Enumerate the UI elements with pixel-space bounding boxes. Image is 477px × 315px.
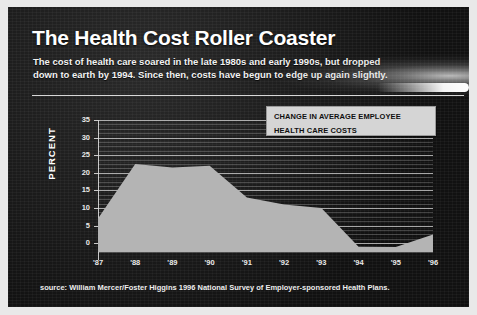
x-tick-95: '95 [391, 258, 401, 267]
y-tick-30: 30 [68, 134, 90, 142]
y-tick-5: 5 [68, 222, 90, 230]
x-tick-89: '89 [167, 258, 177, 267]
plot-area [98, 120, 433, 252]
area-series [98, 120, 433, 252]
x-tick-87: '87 [93, 258, 103, 267]
comet-core [377, 83, 469, 92]
y-tick-35: 35 [68, 116, 90, 124]
x-tick-90: '90 [205, 258, 215, 267]
x-tick-91: '91 [242, 258, 252, 267]
subtitle: The cost of health care soared in the la… [33, 55, 433, 81]
x-tick-92: '92 [279, 258, 289, 267]
subtitle-line-1: The cost of health care soared in the la… [33, 56, 380, 67]
page-title: The Health Cost Roller Coaster [32, 26, 335, 50]
y-tick-15: 15 [68, 186, 90, 194]
x-tick-94: '94 [353, 258, 363, 267]
infographic-root: The Health Cost Roller Coaster The cost … [0, 0, 477, 315]
subtitle-line-2: down to earth by 1994. Since then, costs… [33, 68, 433, 81]
y-tick-25: 25 [68, 151, 90, 159]
x-tick-96: '96 [428, 258, 438, 267]
source-note: source: William Mercer/Foster Higgins 19… [40, 283, 390, 292]
chart-legend: CHANGE IN AVERAGE EMPLOYEE HEALTH CARE C… [266, 106, 436, 136]
legend-line-1: CHANGE IN AVERAGE EMPLOYEE [267, 107, 435, 121]
x-tick-93: '93 [316, 258, 326, 267]
x-axis-ticks: '87'88'89'90'91'92'93'94'95'96 [98, 258, 433, 274]
y-tick-20: 20 [68, 169, 90, 177]
dark-panel: The Health Cost Roller Coaster The cost … [8, 7, 469, 307]
y-tick-10: 10 [68, 204, 90, 212]
minor-gridline [98, 252, 433, 253]
y-tick-0: 0 [68, 239, 90, 247]
y-axis-label: PERCENT [46, 119, 57, 189]
x-tick-88: '88 [130, 258, 140, 267]
legend-line-2: HEALTH CARE COSTS [267, 121, 435, 135]
header-divider [32, 95, 464, 96]
header: The Health Cost Roller Coaster The cost … [8, 7, 469, 102]
chart: PERCENT 35302520151050 '87'88'89'90'91'9… [8, 102, 469, 307]
